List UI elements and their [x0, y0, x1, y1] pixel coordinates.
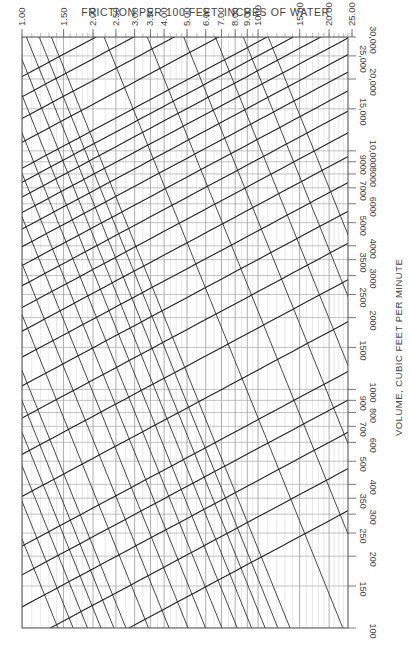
- svg-text:1000: 1000: [368, 382, 378, 402]
- svg-text:500: 500: [358, 457, 368, 472]
- svg-text:2.00: 2.00: [87, 8, 98, 27]
- svg-text:VOLUME, CUBIC FEET PER MINUTE: VOLUME, CUBIC FEET PER MINUTE: [393, 259, 404, 436]
- svg-text:3.50: 3.50: [144, 8, 155, 27]
- svg-text:30,000: 30,000: [368, 26, 378, 54]
- svg-text:7.00: 7.00: [215, 8, 226, 27]
- svg-text:250: 250: [358, 529, 368, 544]
- svg-text:20,000: 20,000: [368, 68, 378, 96]
- svg-text:400: 400: [368, 480, 378, 495]
- svg-text:2.50: 2.50: [110, 8, 121, 27]
- svg-text:15,000: 15,000: [358, 98, 368, 126]
- svg-text:6.00: 6.00: [200, 8, 211, 27]
- svg-text:100: 100: [368, 623, 378, 638]
- svg-text:350: 350: [358, 494, 368, 509]
- svg-text:25,000: 25,000: [358, 45, 368, 73]
- svg-text:200: 200: [368, 552, 378, 567]
- svg-text:3000: 3000: [368, 269, 378, 289]
- svg-text:700: 700: [358, 422, 368, 437]
- svg-text:9.00: 9.00: [241, 8, 252, 27]
- svg-text:7000: 7000: [358, 181, 368, 201]
- svg-text:4.00: 4.00: [158, 8, 169, 27]
- svg-text:8000: 8000: [368, 167, 378, 187]
- svg-text:2500: 2500: [358, 287, 368, 307]
- svg-text:4000: 4000: [368, 239, 378, 259]
- svg-text:1.00: 1.00: [16, 8, 27, 27]
- svg-text:1500: 1500: [358, 340, 368, 360]
- svg-text:6000: 6000: [368, 197, 378, 217]
- duct-friction-chart: 1.001.502.002.503.003.504.005.006.007.00…: [0, 0, 411, 652]
- svg-text:300: 300: [368, 510, 378, 525]
- svg-text:5000: 5000: [358, 216, 368, 236]
- svg-text:150: 150: [358, 581, 368, 596]
- svg-text:15.00: 15.00: [294, 2, 305, 26]
- svg-text:25.00: 25.00: [346, 2, 357, 26]
- svg-text:20.00: 20.00: [323, 2, 334, 26]
- svg-text:900: 900: [358, 396, 368, 411]
- svg-text:800: 800: [368, 408, 378, 423]
- svg-text:2000: 2000: [368, 311, 378, 331]
- svg-text:600: 600: [368, 438, 378, 453]
- svg-text:10,000: 10,000: [368, 140, 378, 168]
- svg-text:1.50: 1.50: [58, 8, 69, 27]
- svg-text:8.00: 8.00: [229, 8, 240, 27]
- svg-text:5.00: 5.00: [181, 8, 192, 27]
- svg-text:9000: 9000: [358, 155, 368, 175]
- svg-text:3500: 3500: [358, 253, 368, 273]
- svg-text:1000: 1000: [252, 5, 263, 26]
- svg-text:3.00: 3.00: [129, 8, 140, 27]
